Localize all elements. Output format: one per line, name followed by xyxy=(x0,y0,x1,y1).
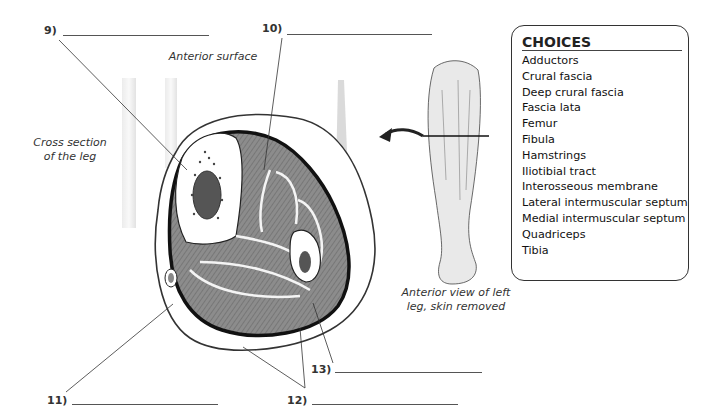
cross-section-label: Cross section of the leg xyxy=(30,136,110,164)
answer-blank-13[interactable] xyxy=(335,372,482,373)
label-11: 11) xyxy=(47,394,67,407)
anterior-view-line-1: Anterior view of left xyxy=(396,286,516,300)
label-9: 9) xyxy=(44,24,57,37)
choice-item: Iliotibial tract xyxy=(522,164,688,180)
choice-item: Deep crural fascia xyxy=(522,85,688,101)
choice-item: Crural fascia xyxy=(522,69,688,85)
choice-item: Tibia xyxy=(522,243,688,259)
choices-title: CHOICES xyxy=(522,34,682,51)
choice-item: Lateral intermuscular septum xyxy=(522,195,688,211)
cross-section-line-2: of the leg xyxy=(30,150,110,164)
choice-item: Interosseous membrane xyxy=(522,179,688,195)
choice-item: Fibula xyxy=(522,132,688,148)
choice-item: Adductors xyxy=(522,53,688,69)
choices-box: CHOICES Adductors Crural fascia Deep cru… xyxy=(511,25,689,281)
anterior-view-line-2: leg, skin removed xyxy=(396,300,516,314)
label-13: 13) xyxy=(311,363,331,376)
choice-item: Fascia lata xyxy=(522,100,688,116)
leader-12a xyxy=(243,347,305,388)
label-12: 12) xyxy=(287,394,307,407)
answer-blank-9[interactable] xyxy=(63,35,209,36)
answer-blank-12[interactable] xyxy=(312,404,458,405)
answer-blank-10[interactable] xyxy=(287,34,432,35)
choice-item: Hamstrings xyxy=(522,148,688,164)
label-10: 10) xyxy=(262,22,282,35)
cross-section-line-1: Cross section xyxy=(30,136,110,150)
choice-item: Femur xyxy=(522,116,688,132)
anterior-surface-label: Anterior surface xyxy=(158,50,268,64)
choice-item: Medial intermuscular septum xyxy=(522,211,688,227)
answer-blank-11[interactable] xyxy=(72,404,218,405)
choice-item: Quadriceps xyxy=(522,227,688,243)
anterior-leg-view xyxy=(428,61,480,284)
leader-11 xyxy=(66,304,173,392)
femur-marrow xyxy=(193,171,221,219)
anterior-view-label: Anterior view of left leg, skin removed xyxy=(396,286,516,314)
